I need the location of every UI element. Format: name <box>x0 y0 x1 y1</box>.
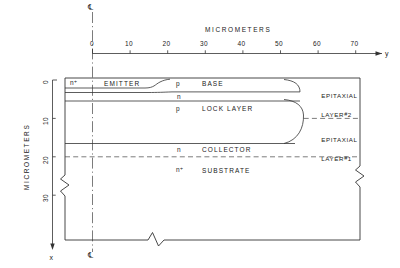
epitaxial-layer-2-line2: LAYER <box>321 111 344 118</box>
y-tick-label-20: 20 <box>163 41 171 48</box>
centerline-symbol-bottom: ℄ <box>88 252 93 260</box>
lock-layer-right-end-lower <box>284 115 304 144</box>
x-axis-arrowhead <box>50 244 54 251</box>
layer-dopant-substrate: n⁺ <box>176 167 183 174</box>
vertical-axis-title: MICROMETERS <box>24 124 31 190</box>
layer-dopant-lock: p <box>176 106 180 113</box>
y-tick-label-30: 30 <box>200 41 208 48</box>
base-region-right-end <box>284 80 300 92</box>
layer-dopant-emitter: n⁺ <box>70 80 77 87</box>
epitaxial-layer-1-number: 1 <box>348 155 352 162</box>
y-tick-label-60: 60 <box>313 41 321 48</box>
x-tick-label-10: 10 <box>43 117 50 125</box>
epitaxial-layer-2-line1: EPITAXIAL <box>321 92 357 99</box>
y-axis-ticks <box>93 49 356 54</box>
layer-dopant-base: p <box>176 81 180 88</box>
figure-canvas: ℄ ℄ MICROMETERS y 0 10 20 30 40 50 60 70… <box>0 0 400 268</box>
epitaxial-layer-1-annotation: EPITAXIAL LAYER#1 <box>312 125 358 173</box>
vertical-axis-variable: x <box>50 254 54 261</box>
lock-layer-right-end-upper <box>284 100 304 116</box>
layer-dopant-collector: n <box>177 147 181 154</box>
horizontal-axis-variable: y <box>385 50 389 57</box>
layer-dopant-n-sliver: n <box>177 94 181 101</box>
epitaxial-layer-1-line2: LAYER <box>321 155 344 162</box>
y-tick-label-0: 0 <box>90 41 94 48</box>
epitaxial-layer-2-annotation: EPITAXIAL LAYER#2 <box>312 81 358 129</box>
horizontal-axis-title: MICROMETERS <box>205 27 271 34</box>
y-axis-arrowhead <box>376 51 383 55</box>
x-tick-label-0: 0 <box>43 80 50 84</box>
layer-name-base: BASE <box>202 81 224 88</box>
x-tick-label-30: 30 <box>43 194 50 202</box>
emitter-lower-boundary <box>65 92 300 93</box>
layer-name-lock: LOCK LAYER <box>202 106 253 113</box>
layer-name-emitter: EMITTER <box>104 81 140 88</box>
y-tick-label-40: 40 <box>238 41 246 48</box>
x-axis-ticks <box>53 80 58 195</box>
epitaxial-layer-2-number: 2 <box>348 111 352 118</box>
x-tick-label-20: 20 <box>43 156 50 164</box>
y-tick-label-50: 50 <box>275 41 283 48</box>
centerline-symbol-top: ℄ <box>88 4 93 12</box>
y-tick-label-10: 10 <box>125 41 133 48</box>
layer-name-collector: COLLECTOR <box>202 147 252 154</box>
y-tick-label-70: 70 <box>351 41 359 48</box>
device-bottom-edge <box>65 233 360 247</box>
layer-name-substrate: SUBSTRATE <box>202 168 250 175</box>
epitaxial-layer-1-line1: EPITAXIAL <box>321 136 357 143</box>
device-left-edge <box>61 78 70 240</box>
